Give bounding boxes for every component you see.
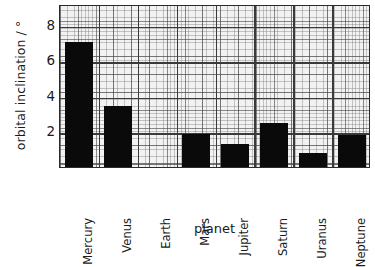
y-tick-label: 8 [35,19,55,33]
y-tick-label: 6 [35,54,55,68]
gridline-horizontal [60,62,369,63]
gridline-vertical [254,6,255,167]
bar-neptune [338,135,366,167]
bar-mars [182,134,210,167]
gridline-vertical [99,6,100,167]
gridline-vertical [332,6,333,167]
y-axis-title: orbital inclination / ° [13,1,28,171]
gridline-vertical [138,6,139,167]
bar-mercury [65,42,93,167]
x-axis-tick-labels: MercuryVenusEarthMarsJupiterSaturnUranus… [59,168,370,220]
y-axis-tick-labels: 8642 [30,0,55,243]
gridline-horizontal [60,27,369,28]
gridline-horizontal [60,98,369,99]
bar-venus [104,106,132,167]
plot-area [59,5,370,168]
y-tick-label: 2 [35,125,55,139]
bar-jupiter [221,144,249,167]
gridline-vertical [216,6,217,167]
bar-saturn [260,123,288,168]
gridline-vertical [293,6,294,167]
bar-uranus [299,153,327,167]
gridline-vertical [177,6,178,167]
y-tick-label: 4 [35,90,55,104]
x-axis-title: planet [59,221,370,236]
